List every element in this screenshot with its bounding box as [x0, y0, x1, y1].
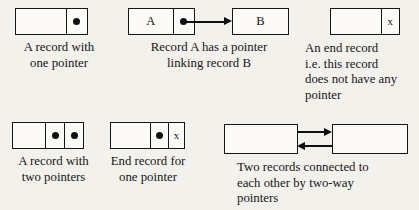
two-way-forward-line — [298, 131, 325, 133]
caption-end-record: An end record i.e. this record does not … — [305, 41, 417, 103]
record-data-cell — [16, 9, 66, 34]
pointer-link-line-a-to-b — [185, 21, 225, 23]
record-b-label: B — [256, 15, 264, 28]
end-record-null-pointer-cell: x — [381, 9, 399, 34]
record-box-two-pointers — [12, 122, 84, 149]
record-box-end: x — [330, 8, 400, 35]
record-a-label: A — [146, 15, 155, 28]
record-data-cell — [225, 125, 297, 153]
caption-record-a-links-b: Record A has a pointer linking record B — [123, 40, 295, 71]
record-pointer-cell — [150, 123, 168, 148]
caption-record-two-pointers: A record with two pointers — [0, 154, 107, 185]
figure-two-way-right-record — [332, 124, 408, 154]
pointer-dot-icon — [156, 132, 163, 139]
record-box-b: B — [232, 8, 289, 35]
record-data-cell — [111, 123, 150, 148]
two-way-back-line — [304, 145, 332, 147]
record-box — [15, 8, 88, 35]
record-a-data-cell: A — [129, 9, 173, 34]
record-b-data-cell: B — [233, 9, 288, 34]
record-data-cell — [13, 123, 45, 148]
record-box-end-one-pointer: x — [110, 122, 185, 149]
figure-two-way-left-record — [224, 124, 298, 154]
figure-end-record-one-pointer: x — [110, 122, 185, 149]
caption-end-record-one-pointer: End record for one pointer — [99, 154, 197, 185]
arrowhead-left-icon — [297, 142, 305, 150]
figure-record-b: B — [232, 8, 289, 35]
caption-record-one-pointer: A record with one pointer — [0, 40, 118, 71]
null-pointer-x-icon: x — [174, 130, 180, 141]
caption-two-way-pointers: Two records connected to each other by t… — [237, 160, 419, 207]
figure-record-two-pointers — [12, 122, 84, 149]
pointer-dot-icon — [71, 132, 78, 139]
record-box-two-way-left — [224, 124, 298, 154]
null-pointer-x-icon: x — [388, 16, 394, 27]
pointer-dot-icon — [73, 18, 80, 25]
record-data-cell — [333, 125, 407, 153]
record-box-two-way-right — [332, 124, 408, 154]
record-null-pointer-cell: x — [168, 123, 184, 148]
arrowhead-right-icon — [324, 128, 332, 136]
record-pointer-cell — [66, 9, 87, 34]
record-pointer-cell-2 — [64, 123, 83, 148]
record-pointer-cell-1 — [45, 123, 64, 148]
arrowhead-right-icon — [224, 17, 232, 25]
figure-record-one-pointer — [15, 8, 88, 35]
end-record-data-cell — [331, 9, 381, 34]
pointer-dot-icon — [52, 132, 59, 139]
figure-end-record: x — [330, 8, 400, 35]
